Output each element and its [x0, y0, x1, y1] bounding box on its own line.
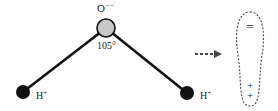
dashed-arrow-icon [195, 50, 222, 58]
dipole-negative-symbol: = [246, 19, 253, 34]
hydrogen-right-label: H+ [200, 89, 211, 101]
oxygen-label: O−− [97, 1, 114, 14]
hydrogen-left-label: H+ [36, 89, 47, 101]
dipole-positive-symbol-2: + [247, 89, 253, 101]
hydrogen-atom-right [180, 86, 194, 100]
hydrogen-atom-left [16, 85, 30, 99]
oxygen-atom [97, 19, 115, 37]
water-molecule-diagram: O−− 105° H+ H+ = + + [0, 0, 278, 111]
bond-right [106, 28, 187, 93]
bond-left [23, 28, 106, 92]
bond-angle-label: 105° [97, 40, 116, 51]
